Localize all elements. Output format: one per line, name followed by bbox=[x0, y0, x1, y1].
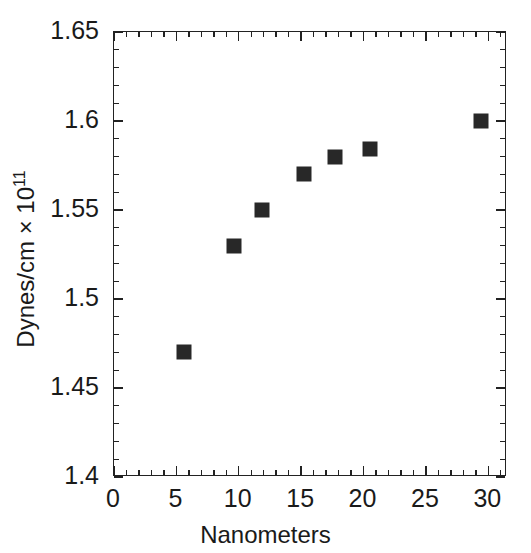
x-axis-minor-tick bbox=[400, 470, 401, 475]
y-axis-major-tick-right bbox=[496, 387, 505, 388]
y-axis-minor-tick-right bbox=[500, 459, 505, 460]
x-axis-minor-tick-top bbox=[138, 32, 139, 37]
x-axis-minor-tick-top bbox=[413, 32, 414, 37]
data-point-marker bbox=[255, 203, 270, 218]
y-axis-minor-tick-right bbox=[500, 227, 505, 228]
x-axis-minor-tick-top bbox=[338, 32, 339, 37]
x-axis-minor-tick bbox=[163, 470, 164, 475]
y-axis-minor-tick-right bbox=[500, 423, 505, 424]
data-point-marker bbox=[226, 238, 241, 253]
y-axis-major-tick bbox=[114, 298, 123, 299]
x-axis-major-tick bbox=[176, 466, 177, 475]
y-tick-label: 1.65 bbox=[0, 18, 99, 43]
x-axis-minor-tick bbox=[500, 470, 501, 475]
x-axis-minor-tick bbox=[463, 470, 464, 475]
y-axis-minor-tick bbox=[114, 423, 119, 424]
x-tick-label: 5 bbox=[168, 486, 182, 511]
y-axis-minor-tick-right bbox=[500, 192, 505, 193]
x-axis-minor-tick bbox=[188, 470, 189, 475]
x-axis-minor-tick bbox=[338, 470, 339, 475]
y-axis-minor-tick bbox=[114, 334, 119, 335]
x-axis-minor-tick bbox=[350, 470, 351, 475]
y-axis-major-tick-right bbox=[496, 120, 505, 121]
x-axis-minor-tick bbox=[325, 470, 326, 475]
y-axis-minor-tick bbox=[114, 138, 119, 139]
y-axis-minor-tick-right bbox=[500, 138, 505, 139]
y-axis-major-tick-right bbox=[496, 209, 505, 210]
x-tick-label: 25 bbox=[411, 486, 439, 511]
x-axis-major-tick-top bbox=[300, 32, 301, 41]
x-axis-minor-tick bbox=[450, 470, 451, 475]
x-axis-minor-tick-top bbox=[375, 32, 376, 37]
x-axis-minor-tick-top bbox=[226, 32, 227, 37]
x-tick-label: 15 bbox=[286, 486, 314, 511]
data-point-marker bbox=[327, 149, 342, 164]
y-tick-label: 1.45 bbox=[0, 374, 99, 399]
x-axis-minor-tick-top bbox=[201, 32, 202, 37]
y-axis-minor-tick-right bbox=[500, 85, 505, 86]
x-axis-minor-tick-top bbox=[450, 32, 451, 37]
y-axis-minor-tick-right bbox=[500, 67, 505, 68]
x-axis-minor-tick bbox=[288, 470, 289, 475]
y-axis-minor-tick-right bbox=[500, 316, 505, 317]
y-axis-major-tick bbox=[114, 387, 123, 388]
y-axis-minor-tick bbox=[114, 85, 119, 86]
y-axis-minor-tick bbox=[114, 281, 119, 282]
data-point-marker bbox=[362, 142, 377, 157]
y-axis-minor-tick bbox=[114, 192, 119, 193]
x-axis-minor-tick bbox=[438, 470, 439, 475]
data-point-marker bbox=[296, 167, 311, 182]
x-tick-label: 0 bbox=[106, 486, 120, 511]
y-axis-minor-tick bbox=[114, 245, 119, 246]
x-axis-title: Nanometers bbox=[0, 521, 531, 549]
y-axis-minor-tick-right bbox=[500, 156, 505, 157]
y-tick-label: 1.4 bbox=[0, 463, 99, 488]
x-axis-major-tick bbox=[488, 466, 489, 475]
y-tick-label: 1.5 bbox=[0, 285, 99, 310]
y-axis-minor-tick-right bbox=[500, 405, 505, 406]
x-axis-minor-tick-top bbox=[475, 32, 476, 37]
x-axis-major-tick-top bbox=[488, 32, 489, 41]
y-axis-major-tick bbox=[114, 209, 123, 210]
x-axis-minor-tick bbox=[475, 470, 476, 475]
y-axis-major-tick-right bbox=[496, 298, 505, 299]
x-axis-minor-tick bbox=[126, 470, 127, 475]
y-axis-minor-tick-right bbox=[500, 441, 505, 442]
x-axis-minor-tick-top bbox=[263, 32, 264, 37]
x-axis-minor-tick-top bbox=[388, 32, 389, 37]
y-axis-minor-tick bbox=[114, 370, 119, 371]
y-axis-minor-tick bbox=[114, 67, 119, 68]
x-axis-minor-tick bbox=[151, 470, 152, 475]
x-axis-minor-tick bbox=[251, 470, 252, 475]
y-axis-minor-tick bbox=[114, 174, 119, 175]
x-axis-major-tick bbox=[425, 466, 426, 475]
x-axis-minor-tick-top bbox=[400, 32, 401, 37]
x-axis-minor-tick bbox=[201, 470, 202, 475]
y-axis-minor-tick-right bbox=[500, 263, 505, 264]
x-axis-minor-tick-top bbox=[463, 32, 464, 37]
x-axis-major-tick-top bbox=[363, 32, 364, 41]
plot-area bbox=[113, 31, 506, 476]
x-axis-minor-tick bbox=[263, 470, 264, 475]
y-axis-minor-tick bbox=[114, 103, 119, 104]
y-axis-minor-tick bbox=[114, 49, 119, 50]
y-axis-minor-tick bbox=[114, 227, 119, 228]
x-axis-major-tick bbox=[300, 466, 301, 475]
x-axis-major-tick-top bbox=[176, 32, 177, 41]
x-axis-minor-tick-top bbox=[325, 32, 326, 37]
x-axis-minor-tick-top bbox=[288, 32, 289, 37]
x-axis-minor-tick bbox=[275, 470, 276, 475]
x-axis-major-tick-top bbox=[238, 32, 239, 41]
x-axis-minor-tick-top bbox=[151, 32, 152, 37]
y-axis-minor-tick-right bbox=[500, 281, 505, 282]
y-axis-minor-tick bbox=[114, 459, 119, 460]
x-axis-minor-tick-top bbox=[350, 32, 351, 37]
y-axis-title: Dynes/cm × 1011 bbox=[12, 129, 40, 389]
y-axis-title-exponent: 11 bbox=[11, 170, 28, 187]
y-axis-minor-tick bbox=[114, 441, 119, 442]
x-axis-minor-tick-top bbox=[126, 32, 127, 37]
x-axis-minor-tick bbox=[413, 470, 414, 475]
x-axis-minor-tick-top bbox=[313, 32, 314, 37]
x-tick-label: 10 bbox=[224, 486, 252, 511]
x-axis-minor-tick-top bbox=[251, 32, 252, 37]
